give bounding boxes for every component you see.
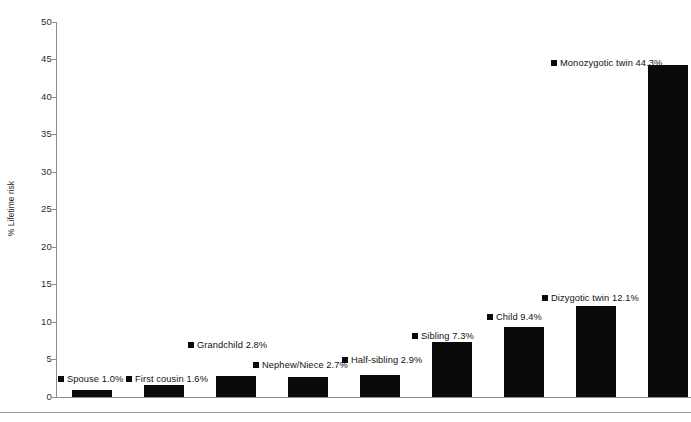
bar (216, 376, 256, 397)
bar (648, 65, 688, 397)
y-tick-label: 15 (30, 279, 52, 289)
y-axis-title: % Lifetime risk (7, 169, 16, 249)
y-tick-label: 10 (30, 317, 52, 327)
label-marker-square-icon (126, 376, 132, 382)
label-marker-square-icon (412, 333, 418, 339)
bar (288, 377, 328, 397)
bar-data-label: Spouse 1.0% (58, 374, 123, 384)
bar (144, 385, 184, 397)
label-marker-square-icon (188, 342, 194, 348)
bar-data-label: Nephew/Niece 2.7% (253, 360, 348, 370)
label-marker-square-icon (551, 60, 557, 66)
bar (504, 327, 544, 398)
bar (360, 375, 400, 397)
label-marker-square-icon (487, 314, 493, 320)
bar-data-label: Child 9.4% (487, 312, 542, 322)
bar-data-label-text: Spouse 1.0% (67, 374, 123, 384)
y-tick-label: 25 (30, 204, 52, 214)
y-axis-ticks: 50 45 40 35 30 25 20 15 10 5 0 (22, 0, 52, 422)
y-tick-label: 30 (30, 167, 52, 177)
bar-chart: 50 45 40 35 30 25 20 15 10 5 0 % Lifetim… (0, 0, 691, 422)
y-tick-label: 5 (30, 354, 52, 364)
bar-data-label: Dizygotic twin 12.1% (542, 293, 639, 303)
bar-data-label: Sibling 7.3% (412, 331, 474, 341)
bar-data-label-text: Sibling 7.3% (421, 331, 474, 341)
bottom-rule (0, 412, 691, 413)
label-marker-square-icon (58, 376, 64, 382)
x-axis-baseline (57, 397, 691, 398)
y-tick-label: 40 (30, 92, 52, 102)
bar-data-label-text: Nephew/Niece 2.7% (262, 360, 348, 370)
bar-data-label-text: First cousin 1.6% (135, 374, 208, 384)
label-marker-square-icon (342, 357, 348, 363)
bar-data-label: Grandchild 2.8% (188, 340, 267, 350)
y-tick-label: 50 (30, 17, 52, 27)
bar-data-label: First cousin 1.6% (126, 374, 208, 384)
bar-data-label-text: Grandchild 2.8% (197, 340, 267, 350)
bar-data-label-text: Dizygotic twin 12.1% (551, 293, 639, 303)
bar-data-label-text: Child 9.4% (496, 312, 542, 322)
label-marker-square-icon (253, 362, 259, 368)
bar-data-label-text: Monozygotic twin 44.3% (560, 58, 662, 68)
y-tick-label: 20 (30, 242, 52, 252)
bar (432, 342, 472, 397)
bars-layer (57, 22, 691, 397)
plot-area (57, 22, 691, 397)
y-tick-label: 0 (30, 392, 52, 402)
bar-data-label: Half-sibling 2.9% (342, 355, 422, 365)
bar (72, 390, 112, 398)
label-marker-square-icon (542, 295, 548, 301)
y-tick-label: 45 (30, 54, 52, 64)
bar (576, 306, 616, 397)
bar-data-label: Monozygotic twin 44.3% (551, 58, 662, 68)
y-tick-label: 35 (30, 129, 52, 139)
bar-data-label-text: Half-sibling 2.9% (351, 355, 422, 365)
